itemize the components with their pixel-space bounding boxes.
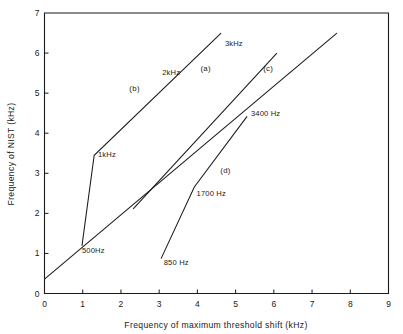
x-tick-label: 9: [386, 299, 391, 309]
y-tick-label: 5: [35, 88, 40, 98]
annotation-label: 850 Hz: [164, 258, 189, 267]
y-tick-label: 6: [35, 48, 40, 58]
series-key-a: (a): [200, 64, 211, 73]
annotation-label: 1700 Hz: [197, 189, 226, 198]
axis-ticks: [45, 53, 351, 293]
y-tick-label: 7: [35, 8, 40, 18]
x-axis-title: Frequency of maximum threshold shift (kH…: [124, 320, 307, 330]
series-line-a: [133, 53, 277, 209]
x-tick-label: 1: [80, 299, 85, 309]
annotation-label: 2kHz: [162, 68, 180, 77]
y-axis-title: Frequency of NIST (kHz): [6, 103, 16, 206]
axis-tick-labels: 012345678901234567: [35, 8, 391, 309]
annotation-label: 3kHz: [225, 39, 243, 48]
y-tick-label: 3: [35, 168, 40, 178]
y-tick-label: 0: [35, 289, 40, 299]
annotation-label: 500Hz: [82, 246, 105, 255]
chart-figure: 012345678901234567 (a)(b)(c)(d) 3kHz2kHz…: [0, 0, 403, 334]
x-tick-label: 0: [42, 299, 47, 309]
annotation-label: 3400 Hz: [251, 109, 280, 118]
y-tick-label: 1: [35, 248, 40, 258]
series-key-d: (d): [220, 166, 231, 175]
x-tick-label: 8: [348, 299, 353, 309]
annotation-label: 1kHz: [98, 150, 116, 159]
x-tick-label: 7: [310, 299, 315, 309]
series-line-d: [161, 116, 247, 258]
line-chart: 012345678901234567 (a)(b)(c)(d) 3kHz2kHz…: [0, 0, 403, 334]
x-tick-label: 2: [119, 299, 124, 309]
x-tick-label: 6: [271, 299, 276, 309]
y-tick-label: 2: [35, 208, 40, 218]
series-line-c: [45, 33, 337, 279]
data-annotations: 3kHz2kHz1kHz500Hz3400 Hz1700 Hz850 Hz: [82, 39, 280, 267]
x-tick-label: 3: [157, 299, 162, 309]
series-key-c: (c): [263, 64, 273, 73]
x-tick-label: 5: [233, 299, 238, 309]
x-tick-label: 4: [195, 299, 200, 309]
series-key-b: (b): [129, 84, 140, 93]
data-series: [45, 33, 337, 279]
y-tick-label: 4: [35, 128, 40, 138]
